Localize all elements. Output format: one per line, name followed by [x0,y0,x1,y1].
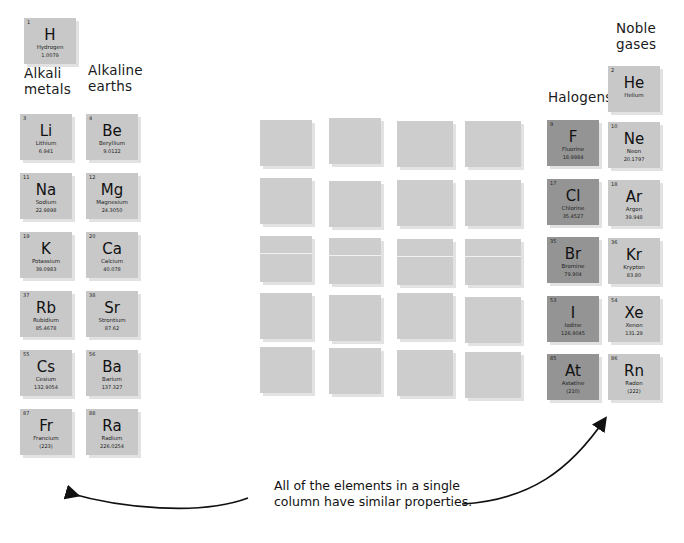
element-symbol: Sr [86,300,138,316]
element-name: Radium [86,435,138,442]
element-symbol: Be [86,123,138,139]
element-tile-i[interactable]: 53IIodine126.9045 [547,296,599,342]
element-symbol: Ca [86,241,138,257]
element-name: Helium [608,92,660,99]
element-name: Bromine [547,263,599,270]
element-name: Potassium [20,258,72,265]
atomic-mass: 137.327 [86,384,138,390]
blank-tile[interactable] [260,293,312,339]
element-tile-k[interactable]: 19KPotassium39.0983 [20,232,72,278]
blank-tile[interactable] [397,239,453,285]
atomic-number: 2 [611,67,614,73]
atomic-number: 55 [23,351,29,357]
atomic-mass: 6.941 [20,148,72,154]
element-tile-he[interactable]: 2HeHelium [608,66,660,112]
element-tile-f[interactable]: 9FFluorine18.9984 [547,120,599,166]
element-tile-ra[interactable]: 88RaRadium226.0254 [86,409,138,455]
element-tile-cs[interactable]: 55CsCesium132.9054 [20,350,72,396]
blank-tile[interactable] [397,350,453,396]
blank-tile[interactable] [260,120,312,166]
element-symbol: Mg [86,182,138,198]
blank-tile[interactable] [465,180,521,226]
element-symbol: Cl [547,188,599,204]
element-tile-rn[interactable]: 86RnRadon(222) [608,354,660,400]
element-tile-na[interactable]: 11NaSodium22.9898 [20,173,72,219]
blank-tile[interactable] [465,297,521,343]
element-tile-hydrogen[interactable]: 1 H Hydrogen 1.0079 [24,18,76,64]
atomic-number: 17 [550,180,556,186]
blank-tile[interactable] [397,180,453,226]
atomic-number: 11 [23,174,29,180]
atomic-number: 3 [23,115,26,121]
blank-tile[interactable] [397,293,453,339]
atomic-number: 36 [611,239,617,245]
blank-tile[interactable] [260,347,312,393]
atomic-number: 35 [550,238,556,244]
element-name: Calcium [86,258,138,265]
atomic-mass: 226.0254 [86,443,138,449]
blank-tile[interactable] [465,121,521,167]
element-symbol: Li [20,123,72,139]
blank-tile[interactable] [260,236,312,282]
atomic-number: 18 [611,181,617,187]
atomic-number: 88 [89,410,95,416]
atomic-mass: (222) [608,388,660,394]
atomic-mass: 1.0079 [24,52,76,58]
element-tile-ca[interactable]: 20CaCalcium40.078 [86,232,138,278]
element-symbol: Na [20,182,72,198]
element-tile-rb[interactable]: 37RbRubidium85.4678 [20,291,72,337]
atomic-number: 9 [550,121,553,127]
atomic-number: 85 [550,355,556,361]
element-symbol: Ra [86,418,138,434]
blank-tile[interactable] [329,238,381,284]
atomic-number: 10 [611,123,617,129]
atomic-number: 53 [550,297,556,303]
element-symbol: He [608,75,660,91]
element-tile-kr[interactable]: 36KrKrypton83.80 [608,238,660,284]
element-name: Sodium [20,199,72,206]
atomic-number: 56 [89,351,95,357]
atomic-mass: 39.0983 [20,266,72,272]
atomic-mass: 40.078 [86,266,138,272]
blank-tile[interactable] [329,348,381,394]
element-name: Strontium [86,317,138,324]
atomic-number: 20 [89,233,95,239]
element-name: Rubidium [20,317,72,324]
group-label-alkaline-earths: Alkaline earths [88,62,160,94]
element-tile-sr[interactable]: 38SrStrontium87.62 [86,291,138,337]
blank-tile[interactable] [397,121,453,167]
element-name: Astatine [547,380,599,387]
element-tile-at[interactable]: 85AtAstatine(210) [547,354,599,400]
element-tile-fr[interactable]: 87FrFrancium(223) [20,409,72,455]
atomic-mass: 126.9045 [547,330,599,336]
element-symbol: F [547,129,599,145]
element-tile-cl[interactable]: 17ClChlorine35.4527 [547,179,599,225]
element-symbol: Ar [608,189,660,205]
element-tile-ba[interactable]: 56BaBarium137.327 [86,350,138,396]
element-symbol: I [547,305,599,321]
blank-tile[interactable] [465,239,521,285]
element-tile-mg[interactable]: 12MgMagnesium24.3050 [86,173,138,219]
blank-tile[interactable] [465,352,521,398]
element-name: Argon [608,206,660,213]
atomic-mass: 85.4678 [20,325,72,331]
blank-tile[interactable] [329,118,381,164]
element-tile-xe[interactable]: 54XeXenon131.29 [608,296,660,342]
atomic-number: 86 [611,355,617,361]
element-name: Barium [86,376,138,383]
element-tile-ar[interactable]: 18ArArgon39.948 [608,180,660,226]
blank-tile[interactable] [260,178,312,224]
element-tile-br[interactable]: 35BrBromine79.904 [547,237,599,283]
element-name: Chlorine [547,205,599,212]
blank-tile[interactable] [329,295,381,341]
element-tile-ne[interactable]: 10NeNeon20.1797 [608,122,660,168]
atomic-mass: 24.3050 [86,207,138,213]
atomic-mass: (210) [547,388,599,394]
tile-face: 1 H Hydrogen 1.0079 [24,18,76,64]
blank-tile[interactable] [329,181,381,227]
group-label-noble-gases: Noble gases [616,20,682,52]
element-name: Xenon [608,322,660,329]
element-tile-be[interactable]: 4BeBeryllium9.0122 [86,114,138,160]
atomic-number: 38 [89,292,95,298]
element-tile-li[interactable]: 3LiLithium6.941 [20,114,72,160]
